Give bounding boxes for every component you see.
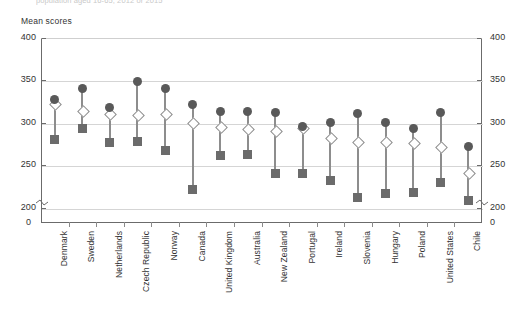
category-tick [317,222,318,227]
category-label: Canada [197,231,207,261]
category-tick [124,222,125,227]
y-tick-mark-right-400 [477,38,481,39]
y-tick-mark-left-200 [42,208,46,209]
y-tick-label-right-200: 200 [490,202,520,212]
marker-low-score[interactable] [298,169,307,178]
category-label: New Zealand [279,231,289,282]
y-tick-label-right-350: 350 [490,74,520,84]
category-tick [151,222,152,227]
category-label: Sweden [86,231,96,262]
marker-high-score[interactable] [409,124,418,133]
category-label: Portugal [307,231,317,263]
y-tick-mark-right-200 [477,208,481,209]
category-tick [234,222,235,227]
marker-low-score[interactable] [50,135,59,144]
marker-low-score[interactable] [464,196,473,205]
y-tick-label-right-250: 250 [490,159,520,169]
marker-low-score[interactable] [161,146,170,155]
range-stem [385,122,387,193]
chart-root: population aged 16-65, 2012 or 2015 Mean… [0,0,525,313]
gridline [42,209,483,210]
category-tick [454,222,455,227]
category-label: United States [445,231,455,283]
y-tick-label-left-250: 250 [10,159,36,169]
y-tick-mark-right-250 [477,165,481,166]
marker-high-score[interactable] [326,118,335,127]
marker-low-score[interactable] [353,193,362,202]
marker-low-score[interactable] [78,124,87,133]
y-tick-mark-left-250 [42,165,46,166]
y-tick-mark-left-350 [42,80,46,81]
y-tick-label-right-400: 400 [490,32,520,42]
y-tick-mark-left-400 [42,38,46,39]
marker-low-score[interactable] [216,151,225,160]
gridline [42,81,483,82]
category-label: Ireland [334,231,344,258]
category-tick [372,222,373,227]
category-label: Denmark [59,231,69,266]
category-tick [69,222,70,227]
y-tick-mark-right-300 [477,123,481,124]
y-axis-stub-left [41,208,42,222]
marker-high-score[interactable] [216,107,225,116]
marker-low-score[interactable] [133,137,142,146]
marker-low-score[interactable] [243,150,252,159]
category-label: Hungary [390,231,400,264]
y-tick-label-left-300: 300 [10,117,36,127]
marker-high-score[interactable] [464,142,473,151]
marker-low-score[interactable] [409,188,418,197]
marker-high-score[interactable] [188,100,197,109]
category-tick [262,222,263,227]
marker-low-score[interactable] [188,185,197,194]
marker-low-score[interactable] [381,189,390,198]
gridline [42,166,483,167]
y-axis-title: Mean scores [21,16,72,26]
marker-high-score[interactable] [271,108,280,117]
category-label: Poland [417,231,427,258]
y-tick-zero-left: 0 [26,217,31,227]
y-tick-zero-right: 0 [490,217,495,227]
y-tick-label-right-300: 300 [490,117,520,127]
marker-high-score[interactable] [133,77,142,86]
y-axis-stub-right [481,208,482,222]
marker-low-score[interactable] [326,176,335,185]
y-tick-mark-right-350 [477,80,481,81]
category-tick [399,222,400,227]
category-tick [206,222,207,227]
marker-high-score[interactable] [161,84,170,93]
range-stem [274,113,276,174]
category-tick [96,222,97,227]
category-tick [179,222,180,227]
marker-low-score[interactable] [271,169,280,178]
marker-low-score[interactable] [436,178,445,187]
y-tick-label-left-400: 400 [10,32,36,42]
y-axis-break-right [475,192,489,208]
category-tick [344,222,345,227]
category-label: Netherlands [114,231,124,278]
y-tick-mark-left-300 [42,123,46,124]
category-label: Czech Republic [141,231,151,292]
category-label: Slovenia [362,231,372,264]
category-label: Australia [252,231,262,265]
marker-low-score[interactable] [105,138,114,147]
marker-high-score[interactable] [381,118,390,127]
range-stem [357,114,359,198]
y-tick-label-left-200: 200 [10,202,36,212]
clipped-top-caption: population aged 16-65, 2012 or 2015 [36,0,336,5]
y-tick-label-left-350: 350 [10,74,36,84]
category-tick [289,222,290,227]
category-label: Norway [169,231,179,260]
y-axis-break-left [35,192,49,208]
category-label: Chile [472,231,482,251]
category-tick [427,222,428,227]
category-label: United Kingdom [224,231,234,293]
